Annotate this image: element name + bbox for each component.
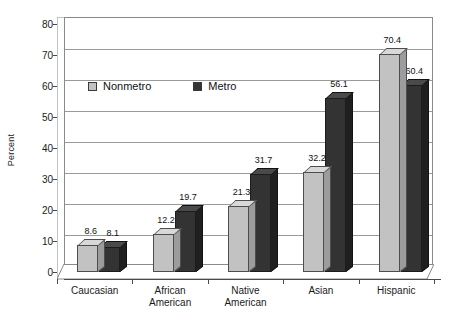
- legend-label-nonmetro: Nonmetro: [103, 80, 151, 92]
- bar-side-face: [249, 200, 256, 271]
- x-axis-category-label: Hispanic: [351, 285, 441, 297]
- bar-front-face: [228, 206, 249, 272]
- y-axis-title: Percent: [6, 110, 16, 190]
- gridline: [65, 142, 432, 143]
- y-axis-tick-label: 30: [29, 174, 53, 185]
- y-axis-tick-label: 70: [29, 50, 53, 61]
- y-axis-tick-label: 0: [29, 267, 53, 278]
- gridline: [65, 49, 432, 50]
- bar-value-label: 8.6: [84, 226, 97, 236]
- x-axis-tick-mark: [57, 279, 58, 284]
- x-axis-category-label-line: American: [201, 297, 291, 309]
- bar-front-face: [379, 54, 400, 272]
- y-axis-tick-label: 80: [29, 19, 53, 30]
- bar-value-label: 70.4: [384, 35, 402, 45]
- gridline: [65, 173, 432, 174]
- x-axis-tick-mark: [132, 279, 133, 284]
- bar-front-face: [303, 172, 324, 272]
- y-axis-tick-label: 10: [29, 236, 53, 247]
- x-axis-tick-mark: [208, 279, 209, 284]
- legend-entry-metro[interactable]: Metro: [193, 80, 236, 92]
- bar-side-face: [271, 168, 278, 272]
- x-axis-tick-mark: [359, 279, 360, 284]
- bar-nonmetro-3[interactable]: [303, 172, 324, 272]
- bar-side-face: [400, 48, 407, 272]
- legend-swatch-nonmetro: [88, 82, 97, 91]
- x-axis-tick-mark: [283, 279, 284, 284]
- bar-value-label: 12.2: [157, 215, 175, 225]
- x-axis-line: [64, 279, 441, 280]
- bar-value-label: 56.1: [330, 79, 348, 89]
- gridline: [65, 111, 432, 112]
- bar-nonmetro-4[interactable]: [379, 54, 400, 272]
- x-axis-category-label-line: Hispanic: [351, 285, 441, 297]
- bar-value-label: 32.2: [308, 153, 326, 163]
- bar-nonmetro-1[interactable]: [153, 234, 174, 272]
- legend-entry-nonmetro[interactable]: Nonmetro: [88, 80, 151, 92]
- bar-front-face: [77, 245, 98, 272]
- bar-value-label: 60.4: [406, 66, 424, 76]
- bar-value-label: 8.1: [106, 228, 119, 238]
- bar-side-face: [346, 93, 353, 272]
- y-axis-tick-label: 20: [29, 205, 53, 216]
- bar-value-label: 21.3: [233, 187, 251, 197]
- bar-side-face: [422, 79, 429, 272]
- legend-swatch-metro: [193, 82, 202, 91]
- legend-label-metro: Metro: [208, 80, 236, 92]
- y-axis-tick-label: 40: [29, 143, 53, 154]
- bar-nonmetro-2[interactable]: [228, 206, 249, 272]
- bar-side-face: [196, 205, 203, 272]
- y-axis-tick-label: 60: [29, 81, 53, 92]
- bar-nonmetro-0[interactable]: [77, 245, 98, 272]
- bar-side-face: [174, 229, 181, 272]
- bar-value-label: 31.7: [255, 155, 273, 165]
- bar-side-face: [324, 167, 331, 272]
- x-axis-tick-mark: [434, 279, 435, 284]
- legend: Nonmetro Metro: [88, 80, 236, 92]
- bar-front-face: [153, 234, 174, 272]
- y-axis-tick-label: 50: [29, 112, 53, 123]
- chart-figure: Percent 01020304050607080 8.68.112.219.7…: [0, 0, 455, 320]
- bar-value-label: 19.7: [179, 192, 197, 202]
